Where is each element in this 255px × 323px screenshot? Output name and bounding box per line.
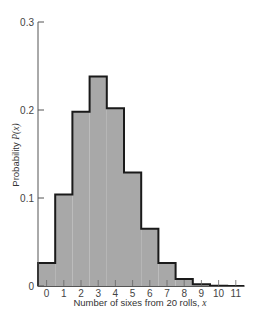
y-tick-label: 0.3: [20, 17, 34, 28]
x-tick-label: 1: [61, 288, 67, 299]
histogram-bar: [55, 194, 72, 286]
histogram-bar: [72, 112, 89, 286]
y-tick-label: 0: [28, 281, 34, 292]
y-axis-title: Probability P(x): [10, 123, 22, 186]
x-tick-label: 10: [213, 288, 225, 299]
x-tick-label: 11: [231, 288, 242, 299]
histogram-chart: 00.10.20.3 01234567891011 Number of sixe…: [0, 0, 255, 323]
x-axis-title: Number of sixes from 20 rolls, x: [73, 297, 207, 308]
histogram-bar: [90, 77, 107, 286]
y-tick-label: 0.1: [20, 193, 34, 204]
histogram-bar: [141, 229, 158, 286]
histogram-bar: [124, 172, 141, 286]
y-axis-ticks: 00.10.20.3: [20, 17, 44, 292]
y-tick-label: 0.2: [20, 105, 34, 116]
histogram-bars: [38, 77, 227, 286]
x-tick-label: 0: [44, 288, 50, 299]
histogram-bar: [107, 108, 124, 286]
